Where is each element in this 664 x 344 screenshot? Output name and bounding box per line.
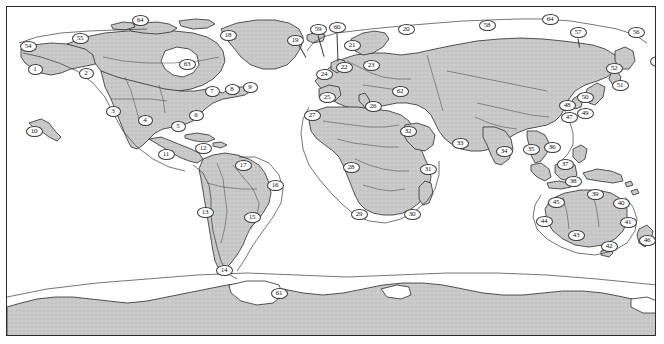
map-marker-northeast-us[interactable]: 8 bbox=[225, 84, 240, 95]
map-marker-black-sea-caspian[interactable]: 62 bbox=[392, 86, 409, 97]
map-marker-sakhalin[interactable]: 51 bbox=[612, 80, 629, 91]
map-marker-gulf-of-guinea[interactable]: 28 bbox=[343, 162, 360, 173]
map-marker-label: 26 bbox=[370, 102, 377, 110]
world-map-figure: 1234567891011121314151617181920212223242… bbox=[0, 0, 664, 344]
map-marker-peru-chile-coast[interactable]: 13 bbox=[197, 207, 214, 218]
map-marker-bering-sea[interactable]: 54 bbox=[20, 41, 37, 52]
map-marker-red-sea[interactable]: 32 bbox=[400, 126, 417, 137]
map-marker-hawaii[interactable]: 10 bbox=[26, 126, 43, 137]
map-marker-yellow-sea[interactable]: 48 bbox=[559, 100, 576, 111]
map-marker-label: 51 bbox=[617, 81, 624, 89]
map-marker-east-africa[interactable]: 31 bbox=[420, 164, 437, 175]
map-marker-label: 61 bbox=[276, 289, 283, 297]
map-marker-maritimes[interactable]: 9 bbox=[243, 82, 258, 93]
map-marker-northern-south-america[interactable]: 17 bbox=[235, 160, 252, 171]
map-marker-south-china-sea[interactable]: 36 bbox=[544, 142, 561, 153]
map-marker-label: 49 bbox=[582, 109, 589, 117]
map-marker-label: 62 bbox=[397, 87, 404, 95]
map-marker-iceland[interactable]: 59 bbox=[310, 24, 327, 35]
map-marker-arafura-sea[interactable]: 39 bbox=[587, 189, 604, 200]
map-marker-philippines[interactable]: 37 bbox=[557, 159, 574, 170]
map-marker-label: 10 bbox=[31, 127, 38, 135]
map-marker-label: 3 bbox=[111, 107, 114, 115]
map-marker-baltic[interactable]: 23 bbox=[363, 60, 380, 71]
map-marker-mid-atlantic-us[interactable]: 7 bbox=[205, 86, 220, 97]
map-marker-east-australia[interactable]: 41 bbox=[620, 217, 637, 228]
map-marker-patagonia[interactable]: 14 bbox=[216, 265, 233, 276]
map-marker-label: 22 bbox=[341, 63, 348, 71]
map-marker-label: 11 bbox=[163, 150, 169, 158]
map-marker-label: 15 bbox=[249, 213, 256, 221]
map-marker-label: 5 bbox=[176, 122, 179, 130]
map-marker-kara-sea[interactable]: 58 bbox=[479, 20, 496, 31]
map-marker-iberia-atlantic[interactable]: 25 bbox=[319, 92, 336, 103]
map-marker-label: 42 bbox=[606, 242, 613, 250]
map-frame: 1234567891011121314151617181920212223242… bbox=[6, 6, 656, 336]
map-marker-mexico-gulf[interactable]: 5 bbox=[171, 121, 186, 132]
map-marker-faroe-shelf[interactable]: 60 bbox=[329, 22, 346, 33]
map-marker-arctic-ocean-east[interactable]: 64 bbox=[542, 14, 559, 25]
map-marker-label: 21 bbox=[349, 41, 356, 49]
map-marker-hudson-bay[interactable]: 63 bbox=[179, 59, 196, 70]
map-marker-indonesia[interactable]: 38 bbox=[565, 176, 582, 187]
map-marker-label: 6 bbox=[194, 111, 197, 119]
map-marker-east-greenland[interactable]: 19 bbox=[287, 35, 304, 46]
map-marker-baja-pacific[interactable]: 3 bbox=[106, 106, 121, 117]
map-marker-south-brazil[interactable]: 15 bbox=[244, 212, 261, 223]
map-marker-west-greenland[interactable]: 18 bbox=[220, 30, 237, 41]
map-marker-bay-of-biscay[interactable]: 24 bbox=[316, 69, 333, 80]
map-marker-southeast-australia[interactable]: 42 bbox=[601, 241, 618, 252]
map-marker-southwest-africa[interactable]: 29 bbox=[351, 209, 368, 220]
map-marker-barents-sea[interactable]: 20 bbox=[398, 24, 415, 35]
map-marker-label: 24 bbox=[321, 70, 328, 78]
map-marker-label: 39 bbox=[592, 190, 599, 198]
map-marker-label: 4 bbox=[143, 116, 146, 124]
map-marker-label: 23 bbox=[368, 61, 375, 69]
map-marker-florida[interactable]: 6 bbox=[189, 110, 204, 121]
map-marker-southeast-africa[interactable]: 30 bbox=[404, 209, 421, 220]
map-marker-label: 53 bbox=[655, 57, 656, 65]
map-marker-sea-of-japan[interactable]: 50 bbox=[577, 92, 594, 103]
map-marker-caribbean[interactable]: 12 bbox=[195, 143, 212, 154]
map-marker-label: 57 bbox=[575, 28, 582, 36]
map-marker-northwest-pacific-coast[interactable]: 2 bbox=[79, 68, 94, 79]
map-marker-alaska[interactable]: 1 bbox=[28, 64, 43, 75]
map-marker-label: 46 bbox=[644, 236, 651, 244]
map-marker-andaman[interactable]: 35 bbox=[523, 144, 540, 155]
map-marker-new-zealand[interactable]: 46 bbox=[639, 235, 656, 246]
map-marker-norwegian-sea[interactable]: 21 bbox=[344, 40, 361, 51]
map-marker-southern-ocean[interactable]: 61 bbox=[271, 288, 288, 299]
map-marker-label: 16 bbox=[272, 181, 279, 189]
map-marker-coral-sea[interactable]: 40 bbox=[613, 198, 630, 209]
map-marker-north-sea[interactable]: 22 bbox=[336, 62, 353, 73]
map-marker-arabian-sea[interactable]: 33 bbox=[452, 138, 469, 149]
map-marker-japan-south[interactable]: 49 bbox=[577, 108, 594, 119]
map-marker-west-australia[interactable]: 44 bbox=[536, 216, 553, 227]
map-marker-bering-strait-east[interactable]: 56 bbox=[628, 27, 645, 38]
map-marker-label: 45 bbox=[553, 198, 560, 206]
map-marker-east-china-sea[interactable]: 47 bbox=[561, 112, 578, 123]
map-marker-east-siberian-sea[interactable]: 57 bbox=[570, 27, 587, 38]
map-marker-label: 63 bbox=[184, 60, 191, 68]
map-marker-label: 36 bbox=[549, 143, 556, 151]
map-marker-sea-of-okhotsk[interactable]: 52 bbox=[606, 63, 623, 74]
map-marker-great-australian-bight[interactable]: 43 bbox=[568, 230, 585, 241]
map-marker-label: 44 bbox=[541, 217, 548, 225]
map-marker-label: 13 bbox=[202, 208, 209, 216]
map-marker-label: 12 bbox=[200, 144, 207, 152]
map-marker-central-america-pacific[interactable]: 11 bbox=[158, 149, 175, 160]
map-marker-label: 35 bbox=[528, 145, 535, 153]
map-marker-label: 29 bbox=[356, 210, 363, 218]
map-marker-label: 43 bbox=[573, 231, 580, 239]
map-marker-mediterranean[interactable]: 26 bbox=[365, 101, 382, 112]
map-marker-bay-of-bengal[interactable]: 34 bbox=[496, 146, 513, 157]
map-marker-gulf-of-california[interactable]: 4 bbox=[138, 115, 153, 126]
map-marker-label: 56 bbox=[633, 28, 640, 36]
map-marker-beaufort-sea[interactable]: 55 bbox=[72, 33, 89, 44]
map-marker-northwest-australia[interactable]: 45 bbox=[548, 197, 565, 208]
map-marker-arctic-archipelago[interactable]: 64 bbox=[132, 15, 149, 26]
map-marker-brazil-east-coast[interactable]: 16 bbox=[267, 180, 284, 191]
map-marker-label: 32 bbox=[405, 127, 412, 135]
map-marker-label: 34 bbox=[501, 147, 508, 155]
map-marker-northwest-africa[interactable]: 27 bbox=[304, 110, 321, 121]
